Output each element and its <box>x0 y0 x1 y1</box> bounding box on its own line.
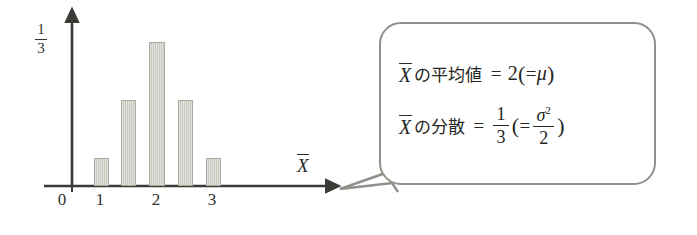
x-tick-label-1: 1 <box>90 190 110 210</box>
mean-paren-close: ) <box>547 61 555 87</box>
mean-inner-symbol: μ <box>537 62 547 85</box>
variance-inner-fraction-numerator: σ2 <box>533 105 554 127</box>
variance-inner-fraction-denominator: 2 <box>536 127 551 147</box>
variance-inner-fraction: σ2 2 <box>533 105 554 147</box>
bar-chart: 1 3 0 1 2 3 X <box>0 0 350 235</box>
variance-equals: = <box>467 115 490 137</box>
bar-1 <box>94 158 109 186</box>
callout-line-mean: X の平均値 = 2 ( = μ ) <box>399 61 636 87</box>
variance-fraction-numerator: 1 <box>493 105 508 126</box>
variance-paren-close: ) <box>557 113 565 139</box>
sigma-symbol: σ <box>536 105 545 125</box>
figure-canvas: 1 3 0 1 2 3 X X の平均値 = 2 <box>0 0 697 235</box>
y-axis-label-denominator: 3 <box>35 40 47 57</box>
callout-content: X の平均値 = 2 ( = μ ) X の分散 = 1 3 ( = <box>381 24 654 183</box>
bar-2 <box>121 100 136 186</box>
callout-line-variance: X の分散 = 1 3 ( = σ2 2 ) <box>399 105 636 147</box>
variance-jp-text: の分散 <box>412 113 468 138</box>
mean-value: 2 <box>508 62 518 85</box>
bar-4 <box>178 100 193 186</box>
bar-5 <box>206 158 221 186</box>
mean-equals: = <box>485 63 508 85</box>
x-axis-label: X <box>297 154 309 177</box>
x-tick-label-3: 3 <box>202 190 222 210</box>
callout-bubble: X の平均値 = 2 ( = μ ) X の分散 = 1 3 ( = <box>379 22 656 185</box>
variance-paren-open: ( <box>512 113 520 139</box>
mean-variable: X <box>399 63 412 85</box>
variance-variable: X <box>399 115 412 137</box>
sigma-exponent: 2 <box>546 104 552 116</box>
y-axis-label: 1 3 <box>28 22 54 57</box>
variance-fraction-denominator: 3 <box>493 126 508 146</box>
variance-fraction: 1 3 <box>493 105 508 146</box>
mean-jp-text: の平均値 <box>412 61 485 86</box>
variance-inner-equals: = <box>519 115 530 137</box>
x-tick-label-0: 0 <box>52 190 72 210</box>
x-tick-label-2: 2 <box>146 190 166 210</box>
bar-3 <box>149 42 165 186</box>
mean-paren-open: ( <box>518 61 526 87</box>
x-axis-label-text: X <box>297 154 309 175</box>
mean-inner-equals: = <box>526 63 537 85</box>
y-axis-label-numerator: 1 <box>35 22 47 40</box>
